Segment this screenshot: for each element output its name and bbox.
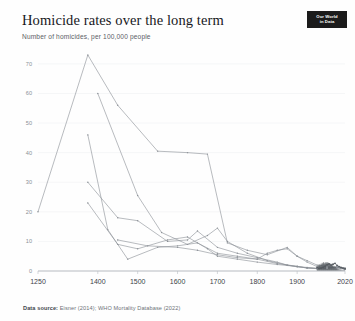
data-point-3-2 [137,220,138,221]
data-point-1-4 [207,235,208,236]
data-point-0-7 [247,250,248,251]
data-point-3-7 [237,253,238,254]
data-point-3-6 [217,247,218,248]
data-point-2-1 [107,229,108,230]
data-point-1-2 [161,232,162,233]
data-point-6-2 [320,267,322,269]
data-point-6-4 [324,265,326,267]
data-point-6-8 [332,263,334,265]
data-point-5-10 [296,256,297,257]
series-lines [38,55,345,269]
data-point-4-6 [217,256,218,257]
line-chart-svg: 010203040506070 125014001500160017001800… [0,48,355,288]
data-point-5-0 [117,239,118,240]
modern-dense-cluster [317,262,345,271]
x-tick-1600: 1600 [170,278,186,285]
data-point-0-6 [227,242,228,243]
data-point-1-6 [227,241,228,242]
data-point-3-1 [117,217,118,218]
owid-logo-line2: in Data [307,19,347,24]
y-tick-10: 10 [26,238,32,244]
data-point-2-2 [127,258,128,259]
plot-area: 010203040506070 125014001500160017001800… [0,48,355,288]
data-point-0-8 [267,254,268,255]
y-tick-60: 60 [26,90,32,96]
y-axis-tick-labels: 010203040506070 [26,61,32,274]
x-tick-1900: 1900 [289,278,305,285]
data-point-4-9 [277,264,278,265]
data-point-5-3 [197,250,198,251]
data-point-6-10 [336,264,338,266]
data-point-3-8 [257,257,258,258]
data-point-4-10 [296,266,297,267]
data-point-0-0 [37,211,38,212]
series-line-2 [88,135,345,269]
x-tick-1400: 1400 [90,278,106,285]
data-point-0-12 [316,264,317,265]
data-point-6-5 [326,264,328,266]
data-point-4-11 [306,267,307,268]
data-point-5-14 [336,267,337,268]
data-point-5-11 [306,261,307,262]
data-point-3-9 [277,261,278,262]
x-tick-1800: 1800 [249,278,265,285]
data-point-0-2 [117,105,118,106]
data-point-6-9 [334,262,336,264]
page-title: Homicide rates over the long term [22,12,347,29]
data-point-4-4 [187,236,188,237]
data-point-2-5 [197,242,198,243]
data-point-1-1 [137,195,138,196]
data-point-6-1 [318,267,320,269]
data-point-6-7 [330,264,332,266]
chart-card: Homicide rates over the long term Number… [0,0,355,321]
x-tick-2020: 2020 [337,278,353,285]
x-tick-1250: 1250 [30,278,46,285]
data-point-3-3 [167,241,168,242]
x-tick-1500: 1500 [130,278,146,285]
data-point-4-0 [87,202,88,203]
y-tick-30: 30 [26,179,32,185]
data-point-1-0 [97,93,98,94]
data-point-2-3 [157,247,158,248]
data-point-5-7 [267,253,268,254]
data-point-0-1 [87,54,88,55]
data-point-3-0 [87,182,88,183]
data-point-4-8 [257,261,258,262]
y-tick-50: 50 [26,120,32,126]
x-axis-tick-labels: 12501400150016001700180019002020 [30,271,353,285]
data-point-3-10 [286,264,287,265]
data-point-4-3 [167,239,168,240]
data-point-1-8 [267,260,268,261]
y-tick-70: 70 [26,61,32,67]
chart-footer: Data source: Eisner (2014); WHO Mortalit… [23,305,180,311]
series-line-0 [38,55,345,269]
data-point-2-0 [87,134,88,135]
x-tick-1700: 1700 [210,278,226,285]
data-point-6-12 [340,267,342,269]
data-point-2-6 [217,253,218,254]
data-point-4-2 [137,248,138,249]
data-point-6-6 [328,263,330,265]
chart-header: Homicide rates over the long term Number… [22,12,347,52]
data-point-6-3 [322,266,324,268]
data-point-5-9 [286,248,287,249]
data-point-6-0 [316,267,318,269]
owid-logo[interactable]: Our World in Data [307,11,347,28]
data-point-5-2 [177,247,178,248]
series-markers [37,54,346,270]
data-point-4-1 [117,244,118,245]
y-tick-20: 20 [26,209,32,215]
data-point-3-4 [187,239,188,240]
data-point-1-3 [187,244,188,245]
data-point-0-5 [207,153,208,154]
data-point-0-3 [157,150,158,151]
data-point-5-5 [237,257,238,258]
data-point-6-13 [342,267,344,269]
data-point-5-8 [277,250,278,251]
data-point-6-14 [344,268,346,270]
source-text: Eisner (2014); WHO Mortality Database (2… [60,305,181,311]
data-point-0-11 [306,260,307,261]
data-point-0-13 [326,266,327,267]
data-point-5-13 [326,267,327,268]
data-point-5-1 [147,245,148,246]
